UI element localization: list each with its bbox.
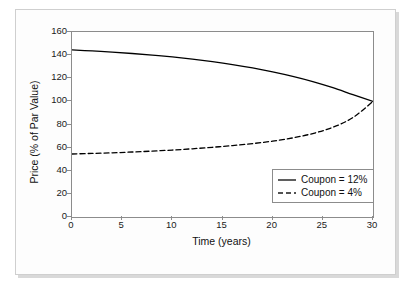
page-background: Price (% of Par Value) 02040608010012014… <box>0 0 409 294</box>
series-line-coupon-12 <box>72 50 373 101</box>
legend-label-0: Coupon = 12% <box>301 174 367 186</box>
legend-line-sample-dashed <box>277 188 297 198</box>
plot-area: Coupon = 12% Coupon = 4% <box>71 31 374 218</box>
x-tick-label: 25 <box>307 219 337 230</box>
x-axis-tick-labels: 051015202530 <box>71 219 373 235</box>
legend-label-1: Coupon = 4% <box>301 187 362 199</box>
series-line-coupon-4 <box>72 101 373 154</box>
legend-item-0: Coupon = 12% <box>277 173 367 186</box>
x-tick-label: 15 <box>207 219 237 230</box>
chart-legend[interactable]: Coupon = 12% Coupon = 4% <box>272 169 374 203</box>
x-tick-label: 30 <box>357 219 387 230</box>
x-tick-label: 20 <box>257 219 287 230</box>
x-axis-title: Time (years) <box>71 235 372 247</box>
legend-line-sample-solid <box>277 175 297 185</box>
legend-item-1: Coupon = 4% <box>277 186 367 199</box>
x-tick-label: 10 <box>156 219 186 230</box>
x-tick-label: 5 <box>106 219 136 230</box>
y-axis-tick-marks <box>15 31 75 217</box>
x-tick-label: 0 <box>56 219 86 230</box>
chart-figure: Price (% of Par Value) 02040608010012014… <box>15 9 396 275</box>
